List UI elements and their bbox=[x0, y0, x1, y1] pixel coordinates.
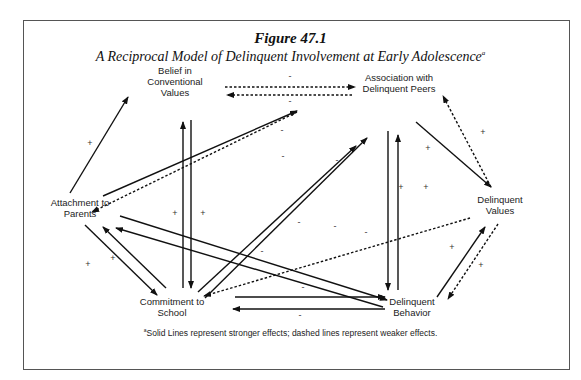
node-belief: Belief inConventionalValues bbox=[147, 65, 202, 98]
edge-sign-peers-to-belief: - bbox=[289, 96, 292, 106]
node-school: Commitment toSchool bbox=[140, 296, 204, 318]
node-label-line: Delinquent bbox=[477, 194, 523, 205]
signs-layer: --+--++++----++++-++-- bbox=[85, 71, 485, 320]
edge-sign-parents-to-peers: - bbox=[281, 125, 284, 135]
node-values: DelinquentValues bbox=[477, 194, 523, 216]
node-label-line: School bbox=[157, 307, 186, 318]
edge-sign-values-to-school: - bbox=[365, 227, 368, 237]
edge-sign-values-to-behavior: + bbox=[478, 260, 483, 270]
node-label-line: Parents bbox=[64, 208, 97, 219]
edge-sign-values-to-peers: + bbox=[480, 127, 485, 137]
edge-parents-to-school bbox=[85, 225, 157, 295]
edge-sign-behavior-to-parents: - bbox=[261, 246, 264, 256]
edge-school-to-peers bbox=[205, 138, 367, 298]
node-label-line: Delinquent Peers bbox=[363, 83, 436, 94]
edge-sign-parents-to-school: + bbox=[85, 259, 90, 269]
footnote-text: Solid Lines represent stronger effects; … bbox=[147, 328, 438, 338]
edge-sign-school-to-parents: + bbox=[110, 253, 115, 263]
node-label-line: Attachment to bbox=[51, 197, 110, 208]
node-label-line: Delinquent bbox=[389, 296, 435, 307]
edge-values-to-peers bbox=[443, 96, 491, 187]
edge-sign-peers-to-values: + bbox=[425, 143, 430, 153]
node-peers: Association withDelinquent Peers bbox=[363, 72, 436, 94]
edge-sign-parents-to-belief: + bbox=[87, 138, 92, 148]
edges-layer bbox=[70, 87, 498, 309]
edge-parents-to-peers bbox=[103, 111, 297, 196]
edge-sign-behavior-to-school: - bbox=[299, 310, 302, 320]
node-label-line: Commitment to bbox=[140, 296, 204, 307]
node-label-line: Behavior bbox=[393, 307, 431, 318]
edge-sign-school-to-belief: + bbox=[172, 208, 177, 218]
edge-sign-peers-to-parents: - bbox=[282, 151, 285, 161]
edge-sign-school-to-peers: - bbox=[298, 217, 301, 227]
node-behavior: DelinquentBehavior bbox=[389, 296, 435, 318]
nodes-layer: Belief inConventionalValuesAssociation w… bbox=[51, 65, 523, 318]
edge-parents-to-belief bbox=[70, 97, 128, 193]
edge-peers-to-parents bbox=[92, 112, 297, 212]
edge-peers-to-school bbox=[198, 146, 356, 292]
node-label-line: Belief in bbox=[158, 65, 192, 76]
node-label-line: Values bbox=[161, 87, 190, 98]
edge-sign-belief-to-school: + bbox=[200, 208, 205, 218]
edge-sign-behavior-to-values: + bbox=[449, 242, 454, 252]
edge-sign-peers-to-school: - bbox=[336, 155, 339, 165]
edge-sign-peers-to-behavior: + bbox=[398, 182, 403, 192]
edge-sign-belief-to-peers: - bbox=[289, 71, 292, 81]
edge-values-to-behavior bbox=[448, 224, 498, 299]
node-label-line: Association with bbox=[365, 72, 433, 83]
edge-sign-parents-to-behavior: - bbox=[334, 221, 337, 231]
edge-sign-school-to-behavior: - bbox=[302, 282, 305, 292]
node-label-line: Conventional bbox=[147, 76, 202, 87]
edge-sign-behavior-to-peers: + bbox=[423, 182, 428, 192]
path-diagram: --+--++++----++++-++-- Belief inConventi… bbox=[0, 0, 581, 380]
node-label-line: Values bbox=[486, 205, 515, 216]
edge-parents-to-behavior bbox=[120, 216, 387, 300]
footnote: aSolid Lines represent stronger effects;… bbox=[0, 327, 581, 338]
